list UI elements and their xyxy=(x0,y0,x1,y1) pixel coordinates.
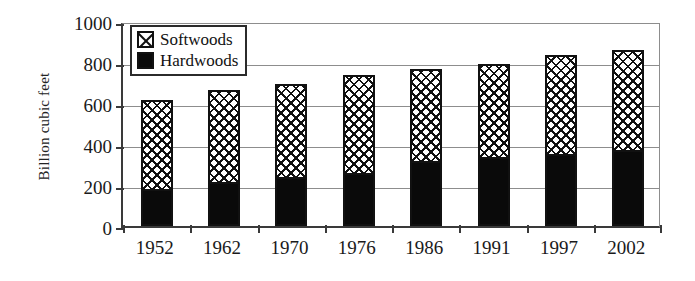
x-tick-label-1962: 1962 xyxy=(188,236,256,260)
x-tick-mark-8 xyxy=(660,225,662,233)
chart-legend: Softwoods Hardwoods xyxy=(130,25,247,76)
x-tick-mark-5 xyxy=(459,225,461,233)
bar-segment-hardwoods-1962 xyxy=(208,182,240,226)
bar-segment-softwoods-2002 xyxy=(612,50,644,150)
bar-segment-softwoods-1962 xyxy=(208,90,240,182)
x-tick-mark-3 xyxy=(325,225,327,233)
bar-group-1962 xyxy=(208,90,240,226)
bar-segment-hardwoods-1991 xyxy=(478,157,510,226)
bar-segment-softwoods-1986 xyxy=(410,69,442,161)
x-tick-label-2002: 2002 xyxy=(592,236,660,260)
y-tick-label-600: 600 xyxy=(0,96,112,115)
solid-black-swatch-icon xyxy=(137,52,154,69)
stacked-bar-chart: Billion cubic feet 1000 800 600 400 200 … xyxy=(0,0,695,281)
bar-segment-hardwoods-1986 xyxy=(410,161,442,226)
x-tick-label-1991: 1991 xyxy=(458,236,526,260)
bar-group-1986 xyxy=(410,69,442,226)
x-axis-tick-labels: 19521962197019761986199119972002 xyxy=(121,236,660,270)
bar-group-1991 xyxy=(478,64,510,226)
legend-label-hardwoods: Hardwoods xyxy=(160,51,238,70)
y-axis-tick-labels: 1000 800 600 400 200 0 xyxy=(0,0,112,281)
bar-segment-hardwoods-1952 xyxy=(141,189,173,226)
bar-segment-softwoods-1952 xyxy=(141,100,173,189)
y-tick-label-200: 200 xyxy=(0,178,112,197)
bar-segment-softwoods-1976 xyxy=(343,75,375,172)
bar-segment-softwoods-1991 xyxy=(478,64,510,157)
legend-label-softwoods: Softwoods xyxy=(160,30,233,49)
x-tick-mark-2 xyxy=(258,225,260,233)
bar-segment-hardwoods-1997 xyxy=(545,154,577,226)
y-tick-label-0: 0 xyxy=(0,219,112,238)
legend-entry-softwoods: Softwoods xyxy=(137,29,238,50)
bar-segment-hardwoods-2002 xyxy=(612,150,644,226)
bar-group-1970 xyxy=(275,84,307,226)
x-tick-label-1986: 1986 xyxy=(390,236,458,260)
x-tick-label-1976: 1976 xyxy=(323,236,391,260)
legend-entry-hardwoods: Hardwoods xyxy=(137,50,238,71)
x-tick-mark-7 xyxy=(594,225,596,233)
x-tick-label-1970: 1970 xyxy=(255,236,323,260)
x-tick-mark-6 xyxy=(527,225,529,233)
bar-group-2002 xyxy=(612,50,644,226)
bar-group-1952 xyxy=(141,100,173,226)
x-tick-mark-4 xyxy=(392,225,394,233)
bar-segment-hardwoods-1970 xyxy=(275,177,307,226)
x-tick-mark-1 xyxy=(190,225,192,233)
y-tick-label-1000: 1000 xyxy=(0,14,112,33)
x-tick-label-1997: 1997 xyxy=(525,236,593,260)
x-tick-mark-0 xyxy=(123,225,125,233)
x-tick-label-1952: 1952 xyxy=(121,236,189,260)
bar-group-1997 xyxy=(545,55,577,226)
y-tick-label-800: 800 xyxy=(0,55,112,74)
bar-group-1976 xyxy=(343,75,375,226)
bar-segment-softwoods-1997 xyxy=(545,55,577,154)
cross-hatch-swatch-icon xyxy=(137,31,154,48)
bar-segment-softwoods-1970 xyxy=(275,84,307,177)
bar-segment-hardwoods-1976 xyxy=(343,173,375,226)
y-tick-label-400: 400 xyxy=(0,137,112,156)
